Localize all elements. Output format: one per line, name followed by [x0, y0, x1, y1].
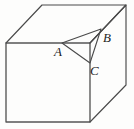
vertex-label-c: C: [90, 64, 99, 77]
cube-diagram: A B C: [0, 0, 134, 129]
triangle-abc: [62, 29, 101, 63]
vertex-label-b: B: [103, 31, 111, 44]
cube-drawing: [0, 0, 134, 129]
vertex-label-a: A: [54, 45, 62, 58]
cube-front-face-edges: [6, 43, 90, 122]
